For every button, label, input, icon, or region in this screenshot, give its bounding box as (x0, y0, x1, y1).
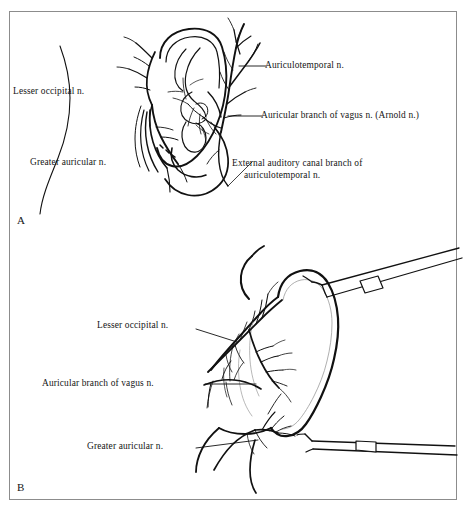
panel-b-artwork (0, 0, 469, 512)
panel-letter-b: B (17, 481, 24, 493)
label-greater-auricular-n-b: Greater auricular n. (87, 441, 163, 453)
anatomical-figure: Auriculotemporal n. Auricular branch of … (0, 0, 469, 512)
label-auricular-branch-vagus-n-b: Auricular branch of vagus n. (42, 378, 154, 390)
panel-b: Lesser occipital n. Auricular branch of … (0, 0, 469, 512)
label-lesser-occipital-n-b: Lesser occipital n. (97, 320, 168, 332)
